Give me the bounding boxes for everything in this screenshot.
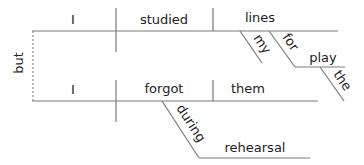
clause-2-subject: I (71, 82, 75, 97)
preposition-during: during (173, 101, 208, 144)
clause-1-verb: studied (140, 12, 188, 27)
clause-2-verb: forgot (145, 81, 184, 96)
conjunction: but (11, 31, 33, 101)
prep-object-modifier-the: the (331, 67, 355, 93)
object-modifier-my: my (251, 31, 275, 57)
clause-2: I forgot them during rehearsal (32, 80, 318, 158)
conjunction-but: but (11, 52, 26, 74)
clause-2-object: them (231, 81, 265, 96)
prep-object-play: play (309, 50, 337, 65)
prep-object-rehearsal: rehearsal (225, 140, 286, 155)
clause-1-object: lines (245, 10, 275, 25)
clause-1-subject: I (71, 12, 75, 27)
clause-1: I studied lines my for play the (32, 8, 355, 101)
sentence-diagram: I studied lines my for play the but I fo… (0, 0, 364, 165)
